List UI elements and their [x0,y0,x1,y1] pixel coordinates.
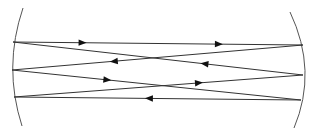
arrowhead-icon [195,79,203,86]
ray-1 [13,42,303,45]
cavity-diagram [0,0,316,139]
diagram-canvas [0,0,316,139]
arrowhead-icon [215,41,223,47]
ray-5 [14,75,303,97]
ray-4 [12,70,301,100]
arrowhead-icon [79,39,87,45]
arrowhead-icon [200,60,209,67]
ray-2 [13,42,303,75]
arrowheads-group [79,39,223,101]
mirrors-group [13,8,305,128]
right-mirror [290,12,305,128]
arrowhead-icon [110,58,119,65]
rays-group [12,42,303,100]
arrowhead-icon [145,95,153,101]
left-mirror [13,8,23,126]
ray-3 [12,45,303,70]
ray-6 [14,97,301,100]
arrowhead-icon [103,76,112,83]
